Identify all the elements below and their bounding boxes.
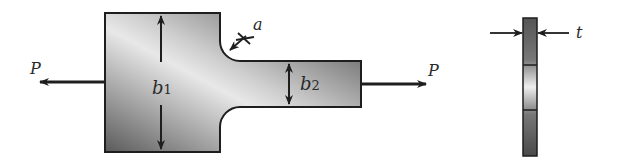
stepped-bar-body xyxy=(105,13,361,152)
thickness-label: t xyxy=(576,23,583,42)
load-label-left: P xyxy=(29,59,41,78)
stepped-bar-diagram: P P b1 b2 a t xyxy=(0,0,620,166)
side-view-strip xyxy=(523,18,537,156)
fillet-radius-label: a xyxy=(253,15,263,34)
load-label-right: P xyxy=(427,61,439,80)
